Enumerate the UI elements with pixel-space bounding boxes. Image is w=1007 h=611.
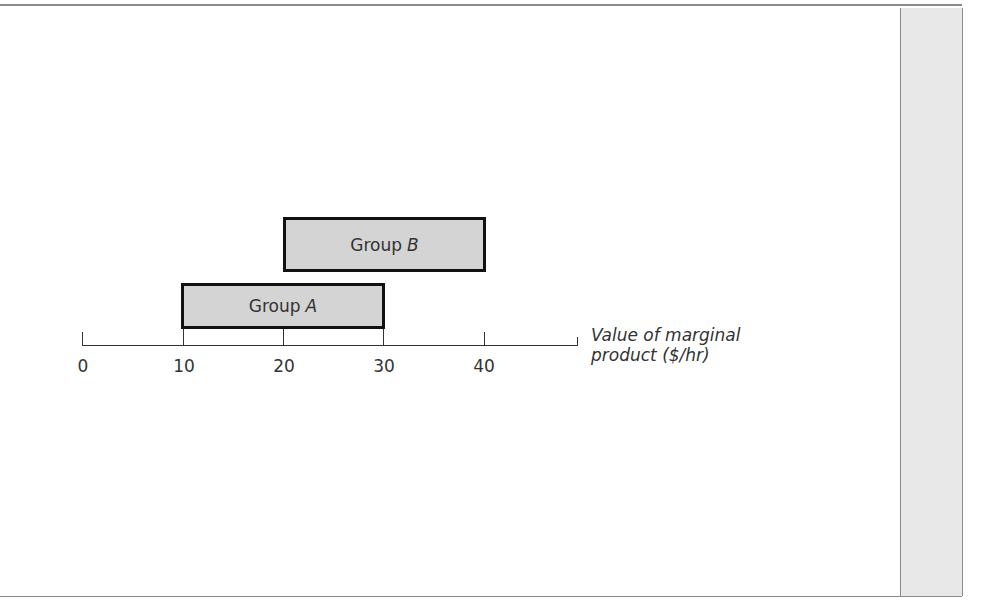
tick-label-20: 20 [273, 356, 295, 376]
side-margin-panel [900, 8, 963, 596]
x-axis-title-line2: product ($/hr) [591, 345, 741, 365]
x-axis-title-line1: Value of marginal [591, 325, 741, 345]
group-a-label-var: A [306, 296, 318, 316]
x-axis-title: Value of marginal product ($/hr) [591, 325, 741, 365]
group-a-label-prefix: Group [249, 296, 301, 316]
range-diagram: Group B Group A 0 10 20 30 40 Value of m… [0, 0, 900, 611]
tick-label-40: 40 [473, 356, 495, 376]
group-b-label-prefix: Group [350, 235, 402, 255]
tick-label-30: 30 [373, 356, 395, 376]
tick-label-10: 10 [173, 356, 195, 376]
group-b-bar: Group B [283, 217, 486, 272]
tick-10 [183, 329, 184, 346]
tick-label-0: 0 [78, 356, 89, 376]
tick-40 [484, 332, 485, 346]
group-a-bar: Group A [181, 283, 385, 329]
x-axis-line [82, 345, 577, 346]
tick-20 [283, 329, 284, 346]
group-b-label-var: B [407, 235, 419, 255]
axis-end-tick [577, 337, 578, 346]
tick-30 [383, 329, 384, 346]
tick-0 [82, 332, 83, 346]
